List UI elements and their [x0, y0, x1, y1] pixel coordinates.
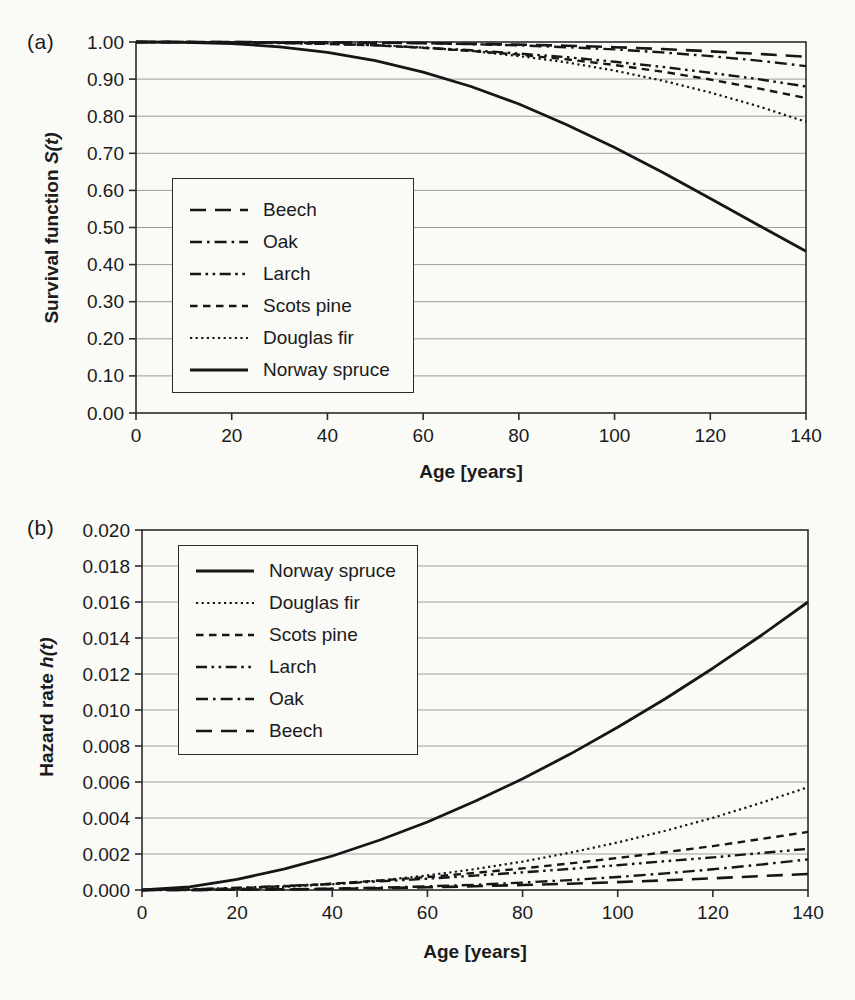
legend-item-larch: Larch [194, 651, 417, 683]
x-tick-label: 100 [602, 902, 634, 923]
x-tick-label: 20 [227, 902, 248, 923]
x-tick-label: 0 [131, 425, 142, 446]
legend-label: Norway spruce [263, 359, 390, 381]
legend-sample-dot-line [194, 593, 256, 613]
legend-sample-dashdot-line [188, 232, 250, 252]
legend-label: Larch [269, 656, 317, 678]
y-tick-label: 0.000 [82, 880, 130, 901]
panel-b-y-title-text: Hazard rate [36, 673, 57, 777]
y-tick-label: 0.006 [82, 772, 130, 793]
legend-item-douglas-fir: Douglas fir [188, 322, 413, 354]
x-tick-label: 140 [792, 902, 824, 923]
legend-label: Beech [269, 720, 323, 742]
legend-sample-dash-line [188, 296, 250, 316]
legend-sample-dashdotdot-line [188, 264, 250, 284]
y-tick-label: 0.70 [87, 143, 124, 164]
series-line-oak [136, 42, 806, 66]
legend-label: Douglas fir [263, 327, 354, 349]
legend-sample-dot-line [188, 328, 250, 348]
x-tick-label: 80 [508, 425, 529, 446]
y-tick-label: 0.80 [87, 106, 124, 127]
x-tick-label: 60 [417, 902, 438, 923]
x-tick-label: 60 [413, 425, 434, 446]
y-tick-label: 0.00 [87, 403, 124, 424]
panel-b-y-title-math: h(t) [36, 637, 57, 668]
legend-label: Beech [263, 199, 317, 221]
panel-a-legend: BeechOakLarchScots pineDouglas firNorway… [172, 178, 414, 393]
y-tick-label: 1.00 [87, 32, 124, 53]
y-tick-label: 0.010 [82, 700, 130, 721]
legend-label: Scots pine [263, 295, 352, 317]
x-tick-label: 120 [694, 425, 726, 446]
series-line-douglas-fir [136, 42, 806, 122]
legend-label: Norway spruce [269, 560, 396, 582]
y-tick-label: 0.10 [87, 365, 124, 386]
legend-sample-dash-line [194, 625, 256, 645]
y-tick-label: 0.014 [82, 628, 130, 649]
panel-a-x-axis-title: Age [years] [419, 461, 523, 483]
y-tick-label: 0.50 [87, 217, 124, 238]
y-tick-label: 0.002 [82, 844, 130, 865]
legend-item-scots-pine: Scots pine [194, 619, 417, 651]
panel-b-x-axis-title: Age [years] [423, 941, 527, 963]
y-tick-label: 0.30 [87, 291, 124, 312]
y-tick-label: 0.018 [82, 556, 130, 577]
panel-b-y-axis-title: Hazard rateh(t) [36, 637, 58, 776]
y-tick-label: 0.020 [82, 520, 130, 541]
panel-a-y-title-text: Survival function [41, 169, 62, 323]
legend-label: Larch [263, 263, 311, 285]
legend-item-larch: Larch [188, 258, 413, 290]
legend-item-oak: Oak [194, 683, 417, 715]
y-tick-label: 0.40 [87, 254, 124, 275]
panel-a-tag: (a) [27, 30, 54, 54]
y-tick-label: 0.008 [82, 736, 130, 757]
legend-label: Douglas fir [269, 592, 360, 614]
y-tick-label: 0.60 [87, 180, 124, 201]
legend-label: Scots pine [269, 624, 358, 646]
legend-sample-solid-line [194, 561, 256, 581]
plots-canvas: 1.000.900.800.700.600.500.400.300.200.10… [0, 0, 855, 1000]
x-tick-label: 100 [599, 425, 631, 446]
legend-sample-longdash-line [194, 721, 256, 741]
legend-item-beech: Beech [194, 715, 417, 747]
legend-item-scots-pine: Scots pine [188, 290, 413, 322]
panel-a-y-axis-title: Survival functionS(t) [41, 132, 63, 323]
series-line-scots-pine [142, 832, 808, 890]
legend-item-oak: Oak [188, 226, 413, 258]
legend-label: Oak [263, 231, 298, 253]
panel-b-legend: Norway spruceDouglas firScots pineLarchO… [178, 545, 418, 755]
series-line-larch [136, 42, 806, 87]
y-tick-label: 0.20 [87, 328, 124, 349]
x-tick-label: 0 [137, 902, 148, 923]
figure: 1.000.900.800.700.600.500.400.300.200.10… [0, 0, 855, 1000]
legend-item-beech: Beech [188, 194, 413, 226]
legend-item-norway-spruce: Norway spruce [194, 555, 417, 587]
legend-sample-dashdot-line [194, 689, 256, 709]
legend-sample-dashdotdot-line [194, 657, 256, 677]
x-tick-label: 40 [317, 425, 338, 446]
panel-a-y-title-math: S(t) [41, 132, 62, 164]
y-tick-label: 0.012 [82, 664, 130, 685]
legend-item-norway-spruce: Norway spruce [188, 354, 413, 386]
legend-label: Oak [269, 688, 304, 710]
y-tick-label: 0.016 [82, 592, 130, 613]
y-tick-label: 0.90 [87, 69, 124, 90]
x-tick-label: 20 [221, 425, 242, 446]
x-tick-label: 80 [512, 902, 533, 923]
legend-sample-longdash-line [188, 200, 250, 220]
x-tick-label: 140 [790, 425, 822, 446]
legend-sample-solid-line [188, 360, 250, 380]
x-tick-label: 40 [322, 902, 343, 923]
legend-item-douglas-fir: Douglas fir [194, 587, 417, 619]
panel-b-tag: (b) [27, 516, 54, 540]
x-tick-label: 120 [697, 902, 729, 923]
y-tick-label: 0.004 [82, 808, 130, 829]
